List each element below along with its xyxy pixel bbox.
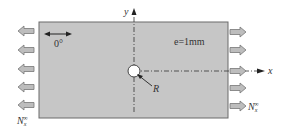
- y-axis-label: y: [123, 6, 129, 17]
- load-arrow-right-icon: [230, 83, 246, 93]
- y-axis-arrowhead-icon: [132, 8, 137, 15]
- load-label-right: Nx∞: [247, 101, 259, 113]
- x-axis-arrowhead-icon: [257, 69, 265, 74]
- plate-with-hole-diagram: y x R 0° e=1mm Nx∞ Nx∞: [0, 0, 282, 129]
- load-arrow-right-icon: [230, 45, 246, 55]
- load-arrow-right-icon: [230, 27, 246, 37]
- x-axis-label: x: [267, 65, 273, 76]
- thickness-label: e=1mm: [174, 36, 205, 47]
- load-arrow-left-icon: [18, 64, 34, 74]
- load-arrow-right-icon: [230, 66, 246, 76]
- load-arrow-left-icon: [18, 82, 34, 92]
- load-label-left: Nx∞: [16, 115, 28, 127]
- load-arrow-left-icon: [18, 45, 34, 55]
- radius-label: R: [152, 83, 159, 94]
- right-load-arrows: [230, 27, 246, 111]
- left-load-arrows: [18, 26, 34, 110]
- load-arrow-right-icon: [230, 101, 246, 111]
- load-arrow-left-icon: [18, 26, 34, 36]
- load-arrow-left-icon: [18, 100, 34, 110]
- fiber-angle-label: 0°: [54, 38, 63, 49]
